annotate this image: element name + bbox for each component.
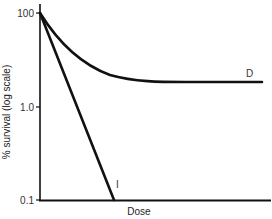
series-d-curve — [40, 13, 262, 82]
y-axis-label: % survival (log scale) — [1, 65, 12, 159]
series-i-line — [40, 13, 114, 200]
survival-chart: 100 1.0 0.1 % survival (log scale) Dose … — [0, 0, 272, 219]
series-i-label: I — [116, 179, 119, 190]
series-d-label: D — [246, 68, 253, 79]
y-tick-label-100: 100 — [17, 8, 34, 19]
y-tick-label-1: 1.0 — [20, 102, 34, 113]
x-axis-label: Dose — [127, 206, 151, 217]
y-tick-label-01: 0.1 — [20, 195, 34, 206]
